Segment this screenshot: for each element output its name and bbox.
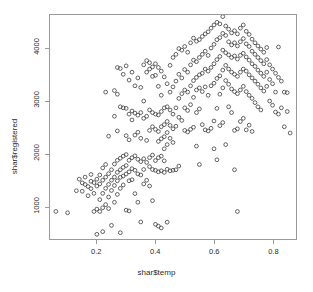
data-point [145, 138, 149, 142]
data-point [238, 40, 242, 44]
data-point [212, 119, 216, 123]
data-point [104, 90, 108, 94]
data-point [195, 144, 199, 148]
data-point [268, 63, 272, 67]
data-point [113, 184, 117, 188]
x-tick-mark [214, 240, 215, 244]
y-tick-mark [45, 207, 49, 208]
data-point [189, 84, 193, 88]
data-point [277, 76, 281, 80]
data-point [200, 52, 204, 56]
data-point [142, 99, 146, 103]
data-point [66, 211, 70, 215]
data-point [241, 51, 245, 55]
data-point [107, 134, 111, 138]
data-point [247, 45, 251, 49]
data-point [168, 108, 172, 112]
data-point [236, 44, 240, 48]
data-point [145, 114, 149, 118]
data-point [212, 62, 216, 66]
data-point [271, 82, 275, 86]
data-point [142, 168, 146, 172]
data-point [180, 76, 184, 80]
data-point [271, 103, 275, 107]
data-point [171, 85, 175, 89]
data-point [186, 50, 190, 54]
data-point [259, 47, 263, 51]
data-point [165, 120, 169, 124]
data-point [221, 15, 225, 18]
data-point [127, 138, 131, 142]
data-point [171, 56, 175, 60]
data-point [127, 170, 131, 174]
data-point [110, 223, 114, 227]
data-point [177, 72, 181, 76]
data-point [227, 67, 231, 71]
data-point [142, 182, 146, 186]
data-point [139, 220, 143, 224]
data-point [180, 92, 184, 96]
data-point [206, 69, 210, 73]
x-axis-title: shar$temp [0, 268, 313, 277]
data-point [253, 52, 257, 56]
data-point [265, 84, 269, 88]
y-tick-label: 4000 [32, 35, 41, 59]
data-point [130, 70, 134, 74]
data-point [165, 143, 169, 147]
data-point [262, 89, 266, 93]
data-point [227, 27, 231, 31]
data-point [139, 136, 143, 140]
data-point [113, 114, 117, 118]
data-point [124, 164, 128, 168]
data-point [165, 82, 169, 86]
data-point [244, 55, 248, 59]
data-point [259, 108, 263, 112]
data-point [151, 153, 155, 157]
data-point [101, 230, 105, 234]
data-point [218, 36, 222, 40]
data-point [107, 183, 111, 187]
data-point [98, 198, 102, 202]
data-point [145, 178, 149, 182]
data-point [118, 186, 122, 190]
scatter-plot-figure: shar$temp shar$registered 10002000300040… [0, 0, 313, 292]
data-point [197, 86, 201, 90]
data-point [121, 72, 125, 76]
data-point [107, 172, 111, 176]
data-point [104, 186, 108, 190]
data-point [136, 200, 140, 204]
data-point [104, 163, 108, 167]
data-point [110, 189, 114, 193]
data-point [238, 26, 242, 30]
data-point [95, 232, 99, 236]
data-point [124, 64, 128, 68]
data-point [156, 130, 160, 134]
plot-area [49, 14, 297, 240]
data-point [241, 37, 245, 41]
data-point [151, 65, 155, 69]
data-point [230, 111, 234, 115]
data-point [142, 63, 146, 67]
data-point [262, 62, 266, 66]
data-point [236, 32, 240, 36]
data-point [159, 93, 163, 97]
data-point [192, 36, 196, 40]
data-point [80, 189, 84, 193]
data-point [224, 63, 228, 67]
data-point [253, 65, 257, 69]
data-point [101, 206, 105, 210]
x-tick-label: 0.6 [199, 247, 229, 256]
data-point [110, 168, 114, 172]
data-point [133, 192, 137, 196]
data-point [238, 88, 242, 92]
data-point [113, 200, 117, 204]
data-point [256, 56, 260, 60]
data-point [241, 116, 245, 120]
data-point [236, 74, 240, 78]
data-point [247, 73, 251, 77]
data-point [168, 90, 172, 94]
data-point [224, 34, 228, 38]
data-point [192, 95, 196, 99]
data-point [104, 203, 108, 207]
data-point [285, 110, 289, 114]
